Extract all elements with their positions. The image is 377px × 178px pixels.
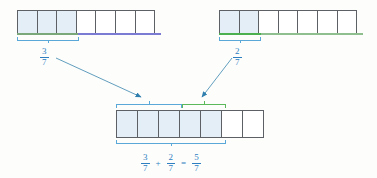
fraction-denominator: 7	[141, 164, 150, 174]
fraction-numerator: 3	[141, 153, 150, 164]
bar-cell	[179, 110, 201, 138]
fraction-three-sevenths: 3 7	[40, 47, 49, 67]
sum-bracket	[116, 140, 226, 149]
bar-cell	[297, 10, 318, 34]
second-addend-bar	[219, 10, 363, 34]
plus-sign: +	[154, 158, 163, 168]
bar-cell	[37, 10, 58, 34]
second-addend-label: 2 7	[233, 47, 242, 67]
bar-cell	[317, 10, 338, 34]
second-addend-bracket	[219, 37, 261, 45]
arrow-from-second-addend	[202, 58, 232, 97]
equation-term-1: 3 7	[141, 153, 150, 173]
fraction-denominator: 7	[167, 164, 176, 174]
sum-bracket-second-part	[182, 100, 226, 108]
bar-cell	[258, 10, 279, 34]
first-addend-bar	[17, 10, 161, 34]
fraction-numerator: 5	[192, 153, 201, 164]
fraction-addition-figure: 3 7 2 7	[0, 0, 377, 178]
bar-cell	[337, 10, 358, 34]
equals-sign: =	[179, 158, 188, 168]
bar-cell	[115, 10, 136, 34]
sum-equation: 3 7 + 2 7 = 5 7	[141, 153, 201, 173]
bar-cell	[137, 110, 159, 138]
bar-cell	[158, 110, 180, 138]
second-bar-underline	[219, 33, 261, 35]
sum-bracket-first-part	[116, 100, 182, 108]
arrow-from-first-addend	[56, 58, 141, 97]
bar-cell	[135, 10, 156, 34]
bar-cell	[278, 10, 299, 34]
bar-cell	[219, 10, 240, 34]
first-bar-underline-shaded	[17, 33, 78, 35]
first-bar-underline	[78, 33, 161, 35]
bar-cell	[221, 110, 243, 138]
first-addend-label: 3 7	[40, 47, 49, 67]
second-bar-underline-rest	[261, 33, 363, 35]
fraction-numerator: 3	[40, 47, 49, 58]
first-addend-bracket	[17, 37, 79, 45]
fraction-denominator: 7	[40, 58, 49, 68]
bar-cell	[239, 10, 260, 34]
fraction-two-sevenths: 2 7	[233, 47, 242, 67]
bar-cell	[76, 10, 97, 34]
bar-cell	[95, 10, 116, 34]
bar-cell	[200, 110, 222, 138]
bar-cell	[56, 10, 77, 34]
fraction-numerator: 2	[167, 153, 176, 164]
equation-result: 5 7	[192, 153, 201, 173]
bar-cell	[116, 110, 138, 138]
bar-cell	[242, 110, 264, 138]
fraction-denominator: 7	[192, 164, 201, 174]
sum-bar	[116, 110, 270, 138]
fraction-denominator: 7	[233, 58, 242, 68]
bar-cell	[17, 10, 38, 34]
equation-term-2: 2 7	[167, 153, 176, 173]
fraction-numerator: 2	[233, 47, 242, 58]
